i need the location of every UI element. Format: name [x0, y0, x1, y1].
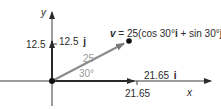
y-component-value: 12.5	[59, 36, 79, 47]
x-component-label: 21.65 i	[144, 70, 177, 81]
vector-equation: v = 25(cos 30°i + sin 30°j)	[110, 28, 221, 39]
vector-diagram: y x 12.5 12.5 j 21.65 i 21.65 25 30° v =…	[0, 0, 221, 109]
x-component-unit: i	[174, 70, 177, 81]
x-tick-label: 21.65	[125, 88, 150, 99]
y-component-unit: j	[82, 36, 86, 47]
x-component-value: 21.65	[144, 70, 169, 81]
y-component-label: 12.5 j	[59, 36, 86, 47]
equation-part1: = 25(cos 30°	[116, 28, 175, 39]
y-axis-label: y	[40, 7, 47, 18]
vector-magnitude-label: 25	[83, 53, 95, 64]
origin-point	[49, 78, 55, 84]
equation-part2: + sin 30°	[178, 28, 220, 39]
equation-j-unit: j	[219, 28, 221, 39]
y-tick-label: 12.5	[26, 39, 46, 50]
vector-endpoint	[126, 38, 132, 44]
x-axis-label: x	[186, 87, 193, 98]
angle-label: 30°	[79, 68, 94, 79]
